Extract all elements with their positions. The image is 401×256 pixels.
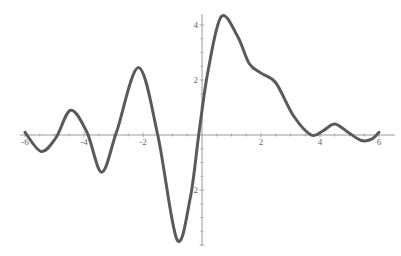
x-tick-label: 2 [259,137,264,147]
y-tick-label: 2 [194,75,199,85]
y-tick-label: 4 [194,20,199,30]
x-tick-label: -2 [139,137,147,147]
x-tick-label: 6 [377,137,382,147]
x-tick-label: 4 [318,137,323,147]
axes [20,14,395,246]
x-tick-label: -4 [80,137,88,147]
function-plot: -6-4-2246-224 [0,0,401,256]
